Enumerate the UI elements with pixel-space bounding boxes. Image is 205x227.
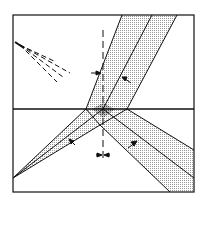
refraction-diagram [0, 0, 205, 227]
virtual-rays [20, 45, 70, 82]
virtual-source-mark [15, 42, 24, 48]
